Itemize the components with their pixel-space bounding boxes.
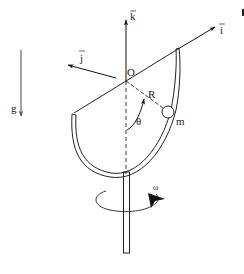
radius-line-dashed: [126, 81, 163, 108]
bead-on-rotating-ring-diagram: g k i j O R θ: [0, 0, 244, 274]
k-vector-label: k: [130, 10, 136, 22]
rotation-shaft: [124, 172, 130, 253]
j-vector-label: j: [79, 52, 83, 64]
i-vector-label: i: [220, 24, 223, 36]
omega-label: ω: [153, 183, 158, 192]
origin-label: O: [127, 66, 135, 78]
rotation-arrow: [96, 191, 165, 212]
gravity-label: g: [11, 102, 17, 114]
cropped-mark: [242, 9, 244, 16]
j-unit-vector-arrow: [68, 65, 116, 78]
theta-label: θ: [136, 115, 141, 127]
mass-label: m: [176, 115, 185, 127]
radius-label: R: [148, 88, 156, 100]
i-unit-vector-arrow: [178, 27, 215, 49]
mass-bead: [162, 106, 174, 118]
